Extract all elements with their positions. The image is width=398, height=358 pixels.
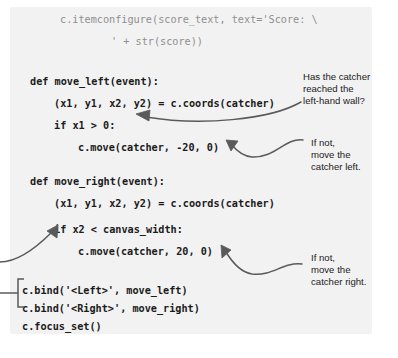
code-line: def move_right(event): [30,176,165,187]
code-listing: c.itemconfigure(score_text, text='Score:… [0,0,398,358]
code-line: c.move(catcher, 20, 0) [78,246,213,257]
code-line: (x1, y1, x2, y2) = c.coords(catcher) [54,198,275,209]
code-line: if x2 < canvas_width: [54,224,183,235]
code-line: def move_left(event): [30,76,159,87]
annotation-move-catcher-left: If not, move the catcher left. [311,137,361,174]
code-line: (x1, y1, x2, y2) = c.coords(catcher) [54,98,275,109]
code-line: if x1 > 0: [54,120,115,131]
annotation-move-catcher-right: If not, move the catcher right. [311,252,366,289]
annotation-left-wall-check: Has the catcher reached the left-hand wa… [303,71,370,108]
code-line: c.bind('<Left>', move_left) [22,285,188,296]
code-line: ' + str(score)) [111,36,203,47]
code-line: c.bind('<Right>', move_right) [22,303,200,314]
figure-annotated-code-listing: c.itemconfigure(score_text, text='Score:… [0,0,398,358]
code-line: c.focus_set() [22,321,102,332]
code-line: c.move(catcher, -20, 0) [78,142,219,153]
code-line: c.itemconfigure(score_text, text='Score:… [60,14,318,25]
